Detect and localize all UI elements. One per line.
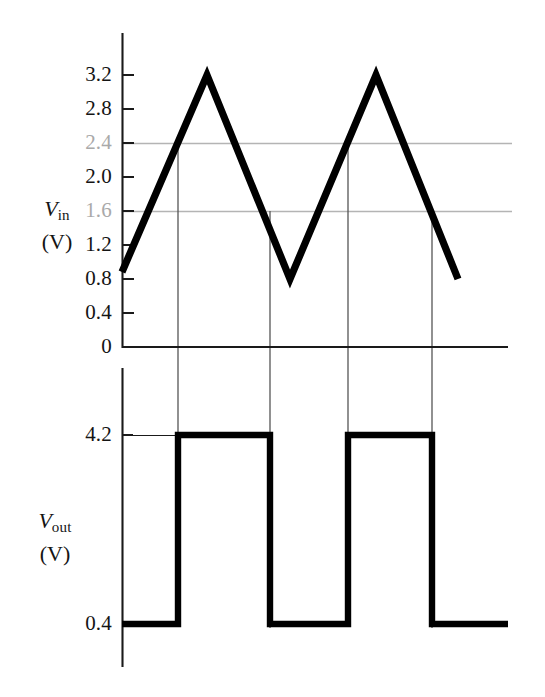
vin-symbol-letter: V [44, 196, 57, 221]
vout-symbol-subscript: out [52, 519, 72, 535]
y-tick-label-0-4: 0.4 [40, 302, 112, 323]
top-y-tick-marks [122, 75, 134, 313]
y-axis-title-vout: Vout (V) [12, 508, 98, 567]
y-axis-title-vin-symbol: Vin [14, 196, 100, 228]
y-tick-label-out-4-2: 4.2 [40, 424, 112, 445]
y-tick-label-2-8: 2.8 [40, 98, 112, 119]
y-tick-label-0-8: 0.8 [40, 268, 112, 289]
y-axis-title-vout-unit: (V) [12, 540, 98, 567]
vin-symbol-subscript: in [58, 207, 70, 223]
threshold-droplines [178, 143, 432, 628]
top-panel-axes [122, 33, 508, 348]
y-tick-label-2-4: 2.4 [40, 132, 112, 153]
y-tick-label-3-2: 3.2 [40, 64, 112, 85]
y-tick-label-out-0-4: 0.4 [40, 613, 112, 634]
bottom-y-tick-marks [122, 435, 133, 624]
v-in-waveform [122, 75, 458, 279]
y-axis-title-vout-symbol: Vout [12, 508, 98, 540]
schmitt-trigger-waveform-figure: 3.2 2.8 2.4 2.0 1.6 1.2 0.8 0.4 0 Vin (V… [0, 0, 545, 697]
v-out-waveform [122, 435, 508, 624]
y-axis-title-vin: Vin (V) [14, 196, 100, 255]
vout-symbol-letter: V [38, 508, 51, 533]
y-tick-label-2-0: 2.0 [40, 166, 112, 187]
y-axis-title-vin-unit: (V) [14, 228, 100, 255]
top-panel-threshold-gridlines [122, 144, 512, 212]
y-tick-label-0: 0 [40, 336, 112, 357]
